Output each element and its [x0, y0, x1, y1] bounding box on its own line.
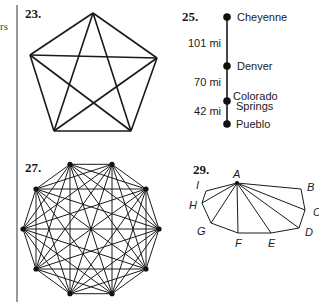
graph-edge	[23, 189, 146, 229]
stop-dot-denver	[223, 62, 231, 70]
graph-vertex	[143, 186, 148, 191]
city-label-pueblo: Pueblo	[236, 118, 270, 130]
graph-edge	[30, 55, 131, 131]
distance-label-2: 70 mi	[194, 76, 221, 88]
city-label-springs: Springs	[236, 100, 274, 112]
graph-edge	[146, 189, 159, 229]
graph-edge	[112, 164, 159, 229]
graph-vertex	[109, 162, 114, 167]
graph-edge	[54, 13, 93, 131]
margin-text-fragment: rs	[0, 20, 8, 32]
graph-edge	[146, 229, 159, 269]
graph-edge	[54, 58, 157, 131]
graph-edge	[36, 164, 112, 269]
vertex-label-d: D	[305, 226, 313, 238]
exercise-25-number: 25.	[182, 9, 198, 24]
graph-vertex	[156, 226, 161, 231]
city-label-denver: Denver	[237, 60, 273, 72]
exercise-29-polygon: ABCDEFGHI	[189, 168, 319, 249]
graph-edge	[112, 164, 146, 269]
graph-vertex	[143, 266, 148, 271]
vertex-a-dot	[235, 181, 239, 185]
exercise-29-number: 29.	[193, 162, 209, 177]
graph-vertex	[67, 162, 72, 167]
graph-edge	[36, 164, 112, 189]
vertex-label-g: G	[197, 225, 206, 237]
graph-edge	[23, 189, 36, 229]
graph-edge	[30, 55, 54, 131]
exercise-23-number: 23.	[25, 6, 41, 21]
vertex-label-a: A	[232, 168, 240, 180]
distance-label-3: 42 mi	[194, 105, 221, 117]
vertex-label-i: I	[196, 179, 199, 191]
graph-edge	[23, 229, 36, 269]
vertex-label-f: F	[235, 237, 243, 249]
exercise-27-number: 27.	[25, 160, 41, 175]
diagonal-from-a	[237, 183, 299, 228]
vertex-label-h: H	[189, 199, 197, 211]
graph-edge	[112, 269, 146, 294]
graph-vertex	[33, 186, 38, 191]
graph-edge	[36, 269, 70, 294]
diagonal-from-a	[237, 183, 305, 210]
stop-dot-colorado-springs	[223, 97, 231, 105]
stop-dot-cheyenne	[223, 13, 231, 21]
vertex-label-e: E	[268, 237, 276, 249]
stop-dot-pueblo	[223, 120, 231, 128]
diagonal-from-a	[237, 183, 238, 233]
exercise-23-pentagon-graph	[30, 13, 157, 131]
exercise-25-route-map: Cheyenne Denver Colorado Springs Pueblo …	[188, 11, 287, 130]
vertex-label-b: B	[307, 181, 314, 193]
exercise-27-decagon-graph	[20, 162, 161, 297]
graph-vertex	[20, 226, 25, 231]
diagonal-from-a	[237, 183, 271, 233]
graph-vertex	[67, 291, 72, 296]
graph-edge	[131, 58, 157, 131]
graph-edge	[93, 13, 131, 131]
distance-label-1: 101 mi	[188, 37, 221, 49]
graph-edge	[30, 55, 157, 58]
vertex-label-c: C	[313, 206, 319, 218]
graph-edge	[36, 229, 159, 269]
graph-vertex	[109, 291, 114, 296]
exercise-figures: rs 23. 25. Cheyenne Denver Colorado Spri…	[0, 0, 319, 307]
diagonal-from-a	[202, 183, 237, 203]
graph-edge	[112, 164, 146, 189]
city-label-cheyenne: Cheyenne	[237, 11, 287, 23]
graph-edge	[112, 229, 159, 294]
graph-vertex	[33, 266, 38, 271]
graph-edge	[93, 13, 157, 58]
graph-edge	[70, 189, 146, 294]
graph-edge	[70, 269, 146, 294]
